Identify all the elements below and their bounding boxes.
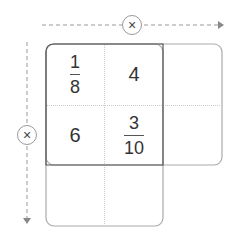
fraction-bar	[70, 74, 80, 75]
denominator: 10	[124, 139, 144, 157]
number-value: 4	[128, 63, 139, 86]
multiply-icon: ×	[128, 17, 136, 33]
multiply-operator-left: ×	[17, 125, 37, 145]
fraction-bar	[124, 135, 144, 136]
multiply-operator-top: ×	[122, 15, 142, 35]
number-value: 6	[69, 124, 80, 147]
fraction: 3 10	[124, 114, 144, 157]
cell-r0-c2-empty[interactable]	[164, 44, 222, 105]
cell-r2-c0-empty[interactable]	[46, 166, 104, 226]
cell-r1-c2-empty[interactable]	[164, 106, 222, 165]
numerator: 1	[70, 53, 80, 71]
multiply-icon: ×	[23, 127, 31, 143]
numerator: 3	[129, 114, 139, 132]
cell-r0-c0: 1 8	[46, 44, 104, 105]
fraction: 1 8	[70, 53, 80, 96]
denominator: 8	[70, 78, 80, 96]
cell-r2-c1-empty[interactable]	[105, 166, 163, 226]
cell-r0-c1: 4	[105, 44, 163, 105]
cell-r1-c1: 3 10	[105, 106, 163, 165]
cell-r1-c0: 6	[46, 106, 104, 165]
